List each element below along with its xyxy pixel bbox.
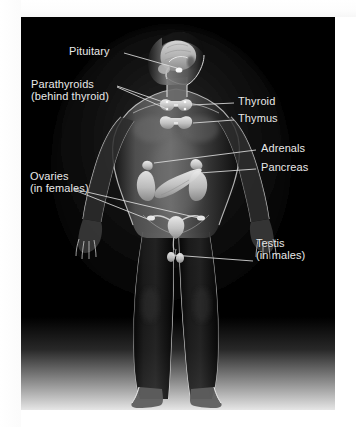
- label-parathyroids-sub: (behind thyroid): [31, 91, 109, 103]
- label-testis-sub: (in males): [256, 250, 305, 262]
- diagram-panel: Pituitary Parathyroids (behind thyroid) …: [21, 17, 335, 410]
- torso: [113, 89, 240, 238]
- label-testis-text: Testis: [256, 237, 285, 249]
- label-ovaries-text: Ovaries: [30, 170, 69, 182]
- page-margin-left: [0, 0, 21, 427]
- label-thymus: Thymus: [238, 113, 278, 125]
- label-pituitary-text: Pituitary: [69, 45, 110, 57]
- endocrine-system-diagram: Pituitary Parathyroids (behind thyroid) …: [0, 0, 356, 427]
- label-pancreas-text: Pancreas: [261, 161, 308, 173]
- label-adrenals: Adrenals: [261, 143, 305, 155]
- page-margin-top: [0, 0, 356, 17]
- label-ovaries-sub: (in females): [30, 183, 89, 195]
- label-thyroid: Thyroid: [238, 96, 275, 108]
- label-parathyroids: Parathyroids (behind thyroid): [31, 79, 109, 102]
- label-pancreas: Pancreas: [261, 162, 308, 174]
- label-parathyroids-text: Parathyroids: [31, 78, 94, 90]
- label-pituitary: Pituitary: [69, 46, 110, 58]
- anatomy-illustration: [21, 17, 335, 410]
- label-adrenals-text: Adrenals: [261, 142, 305, 154]
- label-thyroid-text: Thyroid: [238, 95, 275, 107]
- label-ovaries: Ovaries (in females): [30, 171, 89, 194]
- ovary-left: [147, 215, 155, 220]
- label-thymus-text: Thymus: [238, 112, 278, 124]
- floor-gradient: [21, 317, 335, 410]
- label-testis: Testis (in males): [256, 238, 305, 261]
